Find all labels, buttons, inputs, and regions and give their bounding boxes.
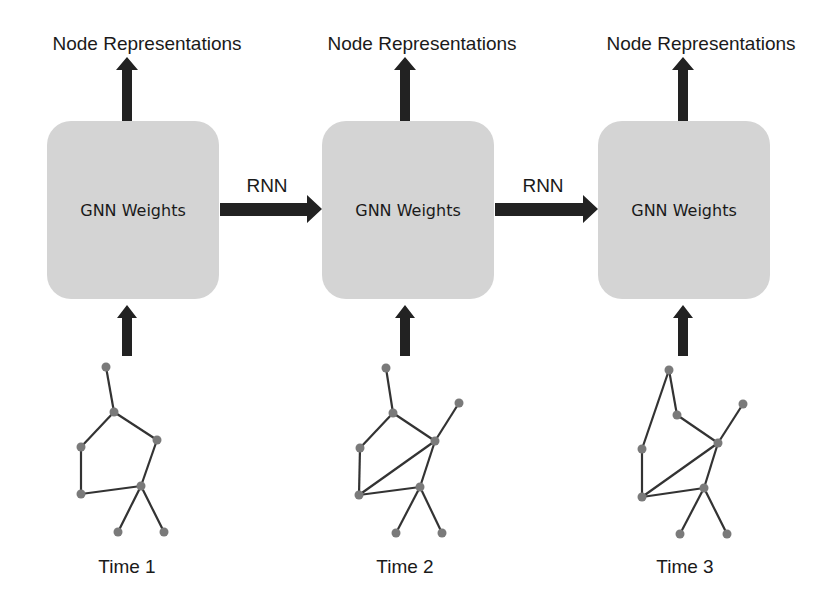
graph-edge bbox=[106, 367, 114, 412]
graph-edge bbox=[141, 486, 164, 532]
graph-edge bbox=[359, 448, 360, 495]
graph-edge bbox=[141, 440, 157, 486]
graph-node bbox=[739, 400, 748, 409]
graph-node bbox=[455, 399, 464, 408]
graph-edge bbox=[386, 368, 393, 413]
graph-edge bbox=[704, 488, 727, 534]
graph-edge bbox=[435, 403, 459, 441]
graph-edge bbox=[118, 486, 141, 532]
graph-edge bbox=[81, 486, 141, 494]
graph-node bbox=[77, 443, 86, 452]
time-label-3: Time 3 bbox=[656, 556, 713, 578]
graph-node bbox=[676, 530, 685, 539]
time-label-2: Time 2 bbox=[376, 556, 433, 578]
graph-node bbox=[392, 529, 401, 538]
graph-edge bbox=[718, 404, 743, 443]
graph-node bbox=[700, 484, 709, 493]
graph-node bbox=[723, 530, 732, 539]
graph-node bbox=[355, 491, 364, 500]
graph-time2 bbox=[355, 364, 464, 538]
graph-time1 bbox=[77, 363, 169, 537]
graph-node bbox=[431, 437, 440, 446]
graph-edge bbox=[114, 412, 157, 440]
graph-edge bbox=[396, 487, 420, 533]
graph-node bbox=[102, 363, 111, 372]
graph-node bbox=[110, 408, 119, 417]
graph-node bbox=[77, 490, 86, 499]
graph-edge bbox=[360, 413, 393, 448]
graph-edge bbox=[704, 443, 718, 488]
graph-edge bbox=[680, 488, 704, 534]
graph-edge bbox=[669, 370, 677, 415]
graph-edge bbox=[393, 413, 435, 441]
graph-edge bbox=[642, 370, 669, 449]
graph-node bbox=[665, 366, 674, 375]
graph-edge bbox=[420, 441, 435, 487]
graph-edge bbox=[420, 487, 442, 533]
graph-node bbox=[356, 444, 365, 453]
graph-node bbox=[137, 482, 146, 491]
graph-node bbox=[416, 483, 425, 492]
graph-node bbox=[160, 528, 169, 537]
graph-node bbox=[153, 436, 162, 445]
graph-edge bbox=[677, 415, 718, 443]
graph-node bbox=[638, 493, 647, 502]
graph-node bbox=[673, 411, 682, 420]
graphs-layer bbox=[0, 0, 836, 607]
time-label-1: Time 1 bbox=[98, 556, 155, 578]
graph-node bbox=[438, 529, 447, 538]
graph-node bbox=[114, 528, 123, 537]
graph-node bbox=[638, 445, 647, 454]
graph-node bbox=[714, 439, 723, 448]
graph-time3 bbox=[638, 366, 748, 539]
graph-node bbox=[389, 409, 398, 418]
graph-edge bbox=[81, 412, 114, 447]
graph-node bbox=[382, 364, 391, 373]
